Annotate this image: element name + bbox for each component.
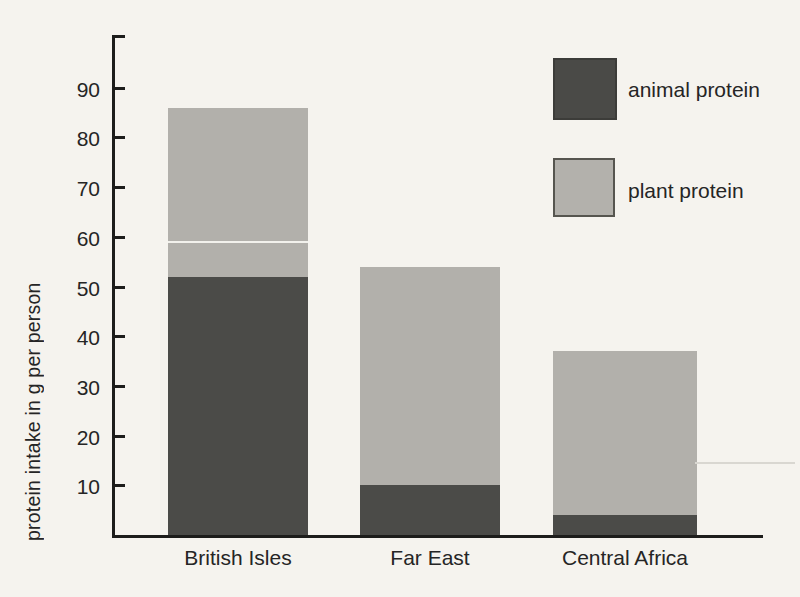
bar-british-isles-plant-segment	[168, 108, 308, 277]
y-tick-label-90: 90	[38, 79, 100, 101]
bar-far-east-plant-segment	[360, 267, 500, 486]
y-tick-label-70: 70	[38, 178, 100, 200]
y-axis-top-tick	[112, 35, 125, 38]
legend-label-animal-protein: animal protein	[628, 78, 760, 102]
y-tick-80	[115, 136, 125, 139]
category-label-far-east: Far East	[340, 546, 520, 570]
animal-protein-swatch	[553, 58, 617, 120]
category-label-british-isles: British Isles	[148, 546, 328, 570]
plant-protein-swatch	[553, 158, 615, 217]
bar-british-isles	[168, 108, 308, 535]
y-tick-label-30: 30	[38, 377, 100, 399]
bar-far-east	[360, 267, 500, 535]
y-tick-30	[115, 385, 125, 388]
y-tick-20	[115, 435, 125, 438]
bar-british-isles-animal-segment	[168, 277, 308, 535]
y-tick-label-40: 40	[38, 327, 100, 349]
scan-artifact-faint-line	[695, 462, 795, 464]
scan-artifact-white-line	[167, 241, 309, 243]
y-tick-label-50: 50	[38, 278, 100, 300]
legend-label-plant-protein: plant protein	[628, 179, 744, 203]
y-axis-title: protein intake in g per person	[22, 260, 52, 541]
y-tick-70	[115, 186, 125, 189]
scanned-chart-page: protein intake in g per person 102030405…	[0, 0, 800, 597]
y-tick-50	[115, 286, 125, 289]
y-tick-40	[115, 335, 125, 338]
bar-far-east-animal-segment	[360, 485, 500, 535]
y-tick-label-20: 20	[38, 427, 100, 449]
y-tick-label-10: 10	[38, 476, 100, 498]
y-tick-label-60: 60	[38, 228, 100, 250]
y-tick-10	[115, 484, 125, 487]
bar-central-africa-animal-segment	[553, 515, 697, 535]
bar-central-africa-plant-segment	[553, 351, 697, 515]
bar-central-africa	[553, 351, 697, 535]
category-label-central-africa: Central Africa	[533, 546, 717, 570]
y-tick-90	[115, 87, 125, 90]
y-tick-60	[115, 236, 125, 239]
y-tick-label-80: 80	[38, 128, 100, 150]
x-axis-line	[112, 535, 763, 538]
